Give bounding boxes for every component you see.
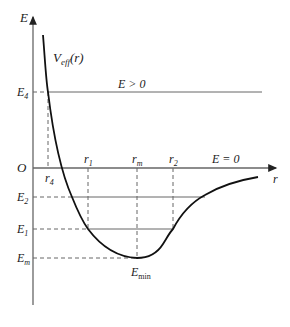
- x-axis-label: r: [273, 172, 278, 186]
- y-axis-label: E: [19, 10, 28, 25]
- r2-label: r2: [169, 152, 178, 168]
- em-label: Em: [16, 251, 30, 267]
- origin-label: O: [17, 160, 27, 175]
- e2-label: E2: [16, 190, 28, 206]
- r1-label: r1: [84, 152, 93, 168]
- curve-label: Veff(r): [53, 50, 84, 67]
- e-zero-label: E = 0: [211, 152, 239, 166]
- e1-label: E1: [16, 222, 28, 238]
- energy-diagram: E r O Veff(r) E4 E > 0 E2 E1 Em E = 0 r4…: [0, 0, 290, 327]
- veff-curve: [43, 35, 258, 258]
- e4-label: E4: [16, 85, 28, 101]
- r4-label: r4: [45, 171, 54, 187]
- emin-label: Emin: [130, 265, 151, 281]
- rm-label: rm: [132, 152, 143, 168]
- e-positive-label: E > 0: [117, 77, 145, 91]
